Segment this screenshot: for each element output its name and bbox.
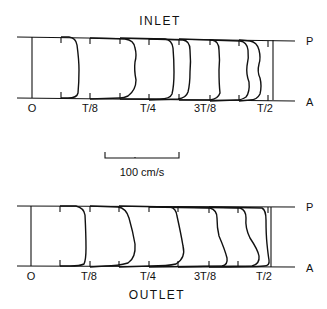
outlet-top-label: P bbox=[306, 201, 313, 213]
scale-bar-label: 100 cm/s bbox=[120, 166, 165, 178]
svg-text:O: O bbox=[28, 102, 37, 114]
svg-text:T/4: T/4 bbox=[140, 270, 156, 282]
svg-text:3T/8: 3T/8 bbox=[194, 102, 216, 114]
svg-text:T/2: T/2 bbox=[257, 102, 273, 114]
inlet-bottom-label: A bbox=[306, 96, 314, 108]
svg-text:T/8: T/8 bbox=[81, 270, 97, 282]
svg-text:O: O bbox=[27, 270, 36, 282]
outlet-panel: P A O T/8 T/4 3T/8 T/2 bbox=[17, 201, 314, 302]
inlet-baseline-ticks bbox=[61, 37, 268, 101]
velocity-profile-diagram: INLET P A bbox=[0, 0, 327, 309]
scale-bar: 100 cm/s bbox=[105, 152, 179, 178]
outlet-baseline-ticks bbox=[60, 206, 268, 267]
inlet-time-axis: O T/8 T/4 3T/8 T/2 bbox=[28, 102, 273, 114]
outlet-title: OUTLET bbox=[129, 288, 185, 302]
svg-text:T/2: T/2 bbox=[256, 270, 272, 282]
inlet-title: INLET bbox=[139, 14, 181, 28]
outlet-time-axis: O T/8 T/4 3T/8 T/2 bbox=[27, 270, 272, 282]
inlet-top-label: P bbox=[306, 35, 313, 47]
svg-text:3T/8: 3T/8 bbox=[194, 270, 216, 282]
inlet-panel: INLET P A bbox=[17, 14, 314, 114]
outlet-profiles bbox=[60, 206, 269, 267]
svg-text:T/8: T/8 bbox=[82, 102, 98, 114]
outlet-bottom-label: A bbox=[306, 262, 314, 274]
svg-text:T/4: T/4 bbox=[140, 102, 156, 114]
inlet-profiles bbox=[61, 37, 261, 101]
